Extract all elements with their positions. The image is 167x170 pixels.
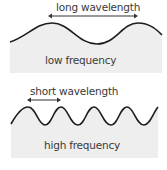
low-frequency-caption: low frequency: [45, 54, 116, 66]
long-wavelength-arrow: [48, 14, 138, 19]
short-wavelength-label: short wavelength: [30, 85, 118, 97]
short-wavelength-arrow: [27, 98, 61, 103]
long-wavelength-label: long wavelength: [56, 1, 140, 13]
high-frequency-panel: short wavelength high frequency: [0, 85, 167, 170]
low-frequency-panel: long wavelength low frequency: [0, 0, 167, 85]
short-wave-diagram: [0, 85, 167, 170]
high-frequency-caption: high frequency: [44, 139, 120, 151]
